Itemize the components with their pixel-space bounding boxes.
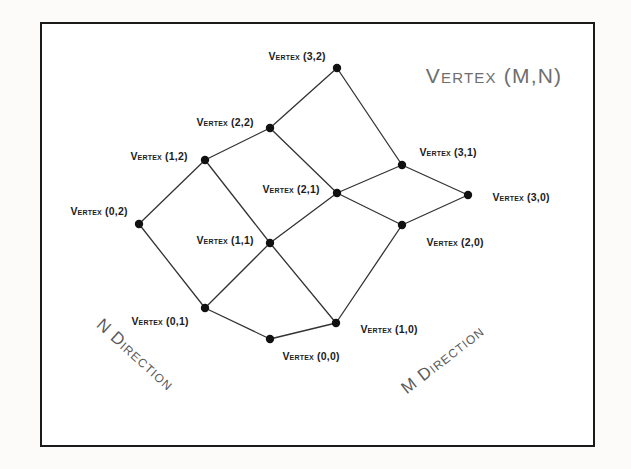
mesh-edges [139,68,468,339]
mesh-edge [139,160,205,224]
vertex-label-1-2: Vertex (1,2) [130,150,187,162]
mesh-edge [402,195,468,225]
mesh-edge [337,165,402,193]
vertex-dot [333,189,341,197]
vertex-dot [398,161,406,169]
mesh-edge [270,243,336,323]
vertex-label-1-1: Vertex (1,1) [196,234,253,246]
vertex-dot [266,239,274,247]
vertex-dot [135,220,143,228]
vertex-label-0-0: Vertex (0,0) [282,350,339,362]
vertex-dot [332,319,340,327]
mesh-edge [337,193,402,225]
vertex-label-3-1: Vertex (3,1) [419,146,476,158]
mesh-edge [270,323,336,339]
mesh-edge [337,68,402,165]
vertex-label-0-2: Vertex (0,2) [70,205,127,217]
mesh-edge [205,128,270,160]
mesh-edge [205,308,270,339]
vertex-label-2-2: Vertex (2,2) [196,116,253,128]
figure-page: Vertex (0,0)Vertex (1,0)Vertex (2,0)Vert… [0,0,631,469]
vertex-label-3-2: Vertex (3,2) [268,50,325,62]
vertex-dot [398,221,406,229]
vertex-dot [464,191,472,199]
figure-title: Vertex (M,N) [426,64,562,88]
mesh-edge [270,68,337,128]
mesh-edge [402,165,468,195]
mesh-edge [205,160,270,243]
vertex-label-3-0: Vertex (3,0) [492,191,549,203]
mesh-edge [336,225,402,323]
vertex-label-1-0: Vertex (1,0) [360,323,417,335]
vertex-dot [201,304,209,312]
mesh-edge [270,193,337,243]
vertex-label-0-1: Vertex (0,1) [131,315,188,327]
vertex-label-2-0: Vertex (2,0) [426,236,483,248]
vertex-dot [266,335,274,343]
mesh-edge [205,243,270,308]
vertex-dot [333,64,341,72]
vertex-label-2-1: Vertex (2,1) [262,183,319,195]
vertex-dot [201,156,209,164]
vertex-dot [266,124,274,132]
mesh-edge [139,224,205,308]
mesh-vertex-dots [135,64,472,343]
